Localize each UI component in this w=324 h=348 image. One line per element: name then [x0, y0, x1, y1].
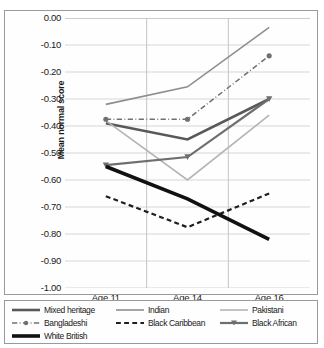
line-chart-svg [65, 18, 310, 288]
series-line [106, 115, 269, 180]
legend-label: Black Caribbean [148, 318, 205, 328]
series-line [106, 27, 269, 104]
legend-body: Mixed heritageIndianPakistaniBangladeshi… [11, 304, 311, 342]
legend-item[interactable]: Bangladeshi [11, 318, 115, 328]
legend-label: Black African [252, 318, 297, 328]
legend-row: BangladeshiBlack CaribbeanBlack African [11, 317, 311, 329]
series-canvas [65, 18, 310, 288]
y-axis-tick-labels: 0.00-0.10-0.20-0.30-0.40-0.50-0.60-0.70-… [19, 11, 61, 296]
plot-frame: Mean normal score 0.00-0.10-0.20-0.30-0.… [4, 10, 318, 295]
chart-title-clipped [0, 0, 324, 6]
y-tick-label: -0.30 [27, 94, 61, 103]
series-marker [267, 53, 272, 58]
legend-swatch-icon [219, 318, 249, 328]
legend-label: White British [44, 331, 87, 341]
legend-swatch-icon [219, 305, 249, 315]
legend-label: Mixed heritage [44, 305, 95, 315]
legend-item[interactable]: Black Caribbean [115, 318, 219, 328]
series-marker [185, 117, 190, 122]
y-tick-label: -0.60 [27, 175, 61, 184]
legend-swatch-icon [115, 305, 145, 315]
legend-item[interactable]: Mixed heritage [11, 305, 115, 315]
y-tick-label: 0.00 [27, 13, 61, 22]
y-tick-label: -0.10 [27, 40, 61, 49]
legend-swatch-icon [11, 331, 41, 341]
legend-label: Indian [148, 305, 169, 315]
legend-swatch-icon [115, 318, 145, 328]
legend-item[interactable]: Indian [115, 305, 219, 315]
y-tick-label: -1.00 [27, 283, 61, 292]
y-tick-label: -0.40 [27, 121, 61, 130]
legend-label: Bangladeshi [44, 318, 87, 328]
legend-label: Pakistani [252, 305, 283, 315]
legend-item[interactable]: White British [11, 331, 115, 341]
chart-container: Mean normal score 0.00-0.10-0.20-0.30-0.… [0, 0, 324, 348]
legend-swatch-icon [11, 318, 41, 328]
legend-item[interactable]: Pakistani [219, 305, 323, 315]
legend-row: White British [11, 330, 311, 342]
legend-swatch-icon [11, 305, 41, 315]
y-tick-label: -0.90 [27, 256, 61, 265]
chart-legend: Mixed heritageIndianPakistaniBangladeshi… [4, 300, 318, 344]
y-tick-label: -0.80 [27, 229, 61, 238]
legend-item[interactable]: Black African [219, 318, 323, 328]
legend-row: Mixed heritageIndianPakistani [11, 304, 311, 316]
y-tick-label: -0.50 [27, 148, 61, 157]
series-marker [103, 117, 108, 122]
y-tick-label: -0.20 [27, 67, 61, 76]
y-tick-label: -0.70 [27, 202, 61, 211]
plot-area [65, 18, 310, 288]
